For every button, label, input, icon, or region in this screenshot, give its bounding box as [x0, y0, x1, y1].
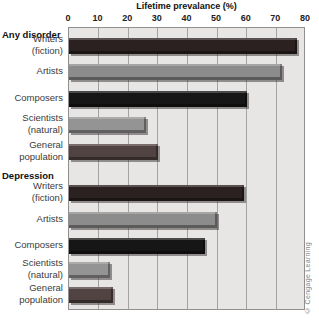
bar-any-disorder-artists [69, 64, 282, 80]
bar-depression-artists [69, 212, 217, 228]
row-label-line: Artists [0, 213, 63, 225]
plot-area [68, 27, 305, 310]
row-label-line: Composers [0, 92, 63, 104]
x-axis-tick-70: 70 [270, 13, 280, 23]
row-label-line: (natural) [0, 269, 63, 281]
row-label-any-disorder-composers: Composers [0, 92, 63, 104]
row-label-depression-writers-fiction: Writers(fiction) [0, 180, 63, 204]
row-label-line: Artists [0, 65, 63, 77]
row-label-line: General [0, 282, 63, 294]
row-label-line: (fiction) [0, 192, 63, 204]
copyright-credit: © Cengage Learning [304, 242, 311, 314]
row-label-line: population [0, 151, 63, 163]
x-axis-tick-0: 0 [65, 13, 70, 23]
row-label-line: Writers [0, 33, 63, 45]
row-label-line: Scientists [0, 257, 63, 269]
x-axis-tick-10: 10 [93, 13, 103, 23]
row-label-any-disorder-scientists-natural: Scientists(natural) [0, 112, 63, 136]
bar-depression-general-population [69, 287, 113, 303]
row-label-line: Writers [0, 180, 63, 192]
x-axis-tick-30: 30 [152, 13, 162, 23]
row-label-depression-scientists-natural: Scientists(natural) [0, 257, 63, 281]
row-label-any-disorder-general-population: Generalpopulation [0, 139, 63, 163]
row-label-depression-composers: Composers [0, 239, 63, 251]
bar-any-disorder-general-population [69, 144, 158, 160]
bar-depression-scientists-natural [69, 262, 110, 278]
row-label-line: (fiction) [0, 45, 63, 57]
x-axis-tick-40: 40 [181, 13, 191, 23]
row-label-any-disorder-artists: Artists [0, 65, 63, 77]
chart-title: Lifetime prevalance (%) [68, 1, 305, 11]
row-label-depression-general-population: Generalpopulation [0, 282, 63, 306]
bar-depression-writers-fiction [69, 185, 244, 201]
row-label-line: General [0, 139, 63, 151]
row-label-depression-artists: Artists [0, 213, 63, 225]
bar-depression-composers [69, 238, 205, 254]
x-axis-tick-60: 60 [241, 13, 251, 23]
bar-any-disorder-writers-fiction [69, 38, 297, 54]
bar-any-disorder-composers [69, 91, 247, 107]
x-axis-tick-80: 80 [300, 13, 310, 23]
row-label-line: (natural) [0, 124, 63, 136]
x-axis-tick-20: 20 [122, 13, 132, 23]
row-label-line: Composers [0, 239, 63, 251]
row-label-any-disorder-writers-fiction: Writers(fiction) [0, 33, 63, 57]
bar-chart-figure: Lifetime prevalance (%) 0102030405060708… [0, 0, 319, 322]
row-label-line: Scientists [0, 112, 63, 124]
x-axis-tick-50: 50 [211, 13, 221, 23]
row-label-line: population [0, 294, 63, 306]
bar-any-disorder-scientists-natural [69, 117, 146, 133]
